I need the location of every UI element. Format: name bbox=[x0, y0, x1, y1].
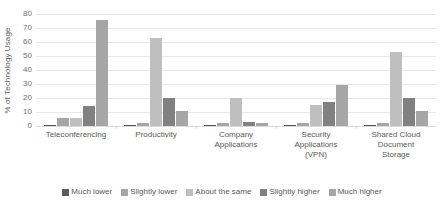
legend-label: Slightly higher bbox=[269, 188, 319, 196]
x-axis-tick-mark bbox=[196, 126, 197, 129]
bar-groups bbox=[36, 14, 436, 126]
bar[interactable] bbox=[416, 111, 428, 126]
bar[interactable] bbox=[364, 125, 376, 126]
y-axis-tick-label: 50 bbox=[23, 52, 32, 60]
bar[interactable] bbox=[403, 98, 415, 126]
bar[interactable] bbox=[150, 38, 162, 126]
bar[interactable] bbox=[83, 106, 95, 126]
x-axis-tick-label-line: (VPN) bbox=[277, 150, 355, 160]
legend-label: About the same bbox=[195, 188, 251, 196]
x-axis-tick-label-line: Applications bbox=[197, 140, 275, 150]
bar[interactable] bbox=[124, 125, 136, 126]
bar-chart: % of Technology Usage 01020304050607080 … bbox=[0, 0, 444, 218]
x-axis-tick-mark bbox=[116, 126, 117, 129]
legend-label: Much lower bbox=[71, 188, 112, 196]
bar[interactable] bbox=[256, 123, 268, 126]
y-axis-tick-labels: 01020304050607080 bbox=[14, 14, 34, 126]
x-axis-tick-labels: TeleconferencingProductivityCompanyAppli… bbox=[36, 130, 436, 178]
x-axis-tick-mark bbox=[276, 126, 277, 129]
legend-swatch-icon bbox=[121, 189, 128, 196]
x-axis-tick-label: Teleconferencing bbox=[36, 130, 116, 178]
y-axis-tick-label: 60 bbox=[23, 38, 32, 46]
bar[interactable] bbox=[57, 118, 69, 126]
chart-legend: Much lowerSlightly lowerAbout the sameSl… bbox=[0, 184, 444, 200]
bar[interactable] bbox=[310, 105, 322, 126]
y-axis-tick-label: 40 bbox=[23, 66, 32, 74]
bar[interactable] bbox=[44, 125, 56, 126]
bar-group bbox=[36, 14, 116, 126]
bar[interactable] bbox=[163, 98, 175, 126]
y-axis-tick-label: 80 bbox=[23, 10, 32, 18]
legend-item[interactable]: Slightly higher bbox=[260, 188, 319, 196]
x-axis-tick-label-line: Applications bbox=[277, 140, 355, 150]
y-axis-title-text: % of Technology Usage bbox=[3, 27, 12, 113]
bar[interactable] bbox=[217, 123, 229, 126]
bar[interactable] bbox=[96, 20, 108, 126]
bar-group bbox=[196, 14, 276, 126]
x-axis-tick-label-line: Company bbox=[197, 130, 275, 140]
bar[interactable] bbox=[323, 102, 335, 126]
y-axis-tick-label: 20 bbox=[23, 94, 32, 102]
x-axis-tick-label-line: Storage bbox=[357, 150, 435, 160]
y-axis-title: % of Technology Usage bbox=[0, 0, 14, 140]
bar-group bbox=[116, 14, 196, 126]
bar[interactable] bbox=[284, 125, 296, 126]
bar[interactable] bbox=[390, 52, 402, 126]
legend-item[interactable]: Slightly lower bbox=[121, 188, 177, 196]
x-axis-tick-label-line: Teleconferencing bbox=[37, 130, 115, 140]
x-axis-tick-label: CompanyApplications bbox=[196, 130, 276, 178]
legend-swatch-icon bbox=[62, 189, 69, 196]
legend-item[interactable]: Much lower bbox=[62, 188, 112, 196]
bar[interactable] bbox=[377, 123, 389, 126]
x-axis-tick-label-line: Document bbox=[357, 140, 435, 150]
x-axis-tick-label-line: Security bbox=[277, 130, 355, 140]
y-axis-tick-label: 70 bbox=[23, 24, 32, 32]
axis-baseline bbox=[36, 126, 436, 127]
plot-area bbox=[36, 14, 436, 126]
legend-label: Slightly lower bbox=[130, 188, 177, 196]
bar[interactable] bbox=[137, 123, 149, 126]
bar[interactable] bbox=[70, 118, 82, 126]
legend-swatch-icon bbox=[260, 189, 267, 196]
x-axis-tick-label: Shared CloudDocumentStorage bbox=[356, 130, 436, 178]
x-axis-tick-mark bbox=[356, 126, 357, 129]
bar[interactable] bbox=[243, 122, 255, 126]
bar[interactable] bbox=[336, 85, 348, 126]
bar[interactable] bbox=[176, 111, 188, 126]
legend-label: Much higher bbox=[338, 188, 382, 196]
y-axis-tick-label: 30 bbox=[23, 80, 32, 88]
bar[interactable] bbox=[297, 123, 309, 126]
legend-swatch-icon bbox=[186, 189, 193, 196]
x-axis-tick-label: Productivity bbox=[116, 130, 196, 178]
legend-item[interactable]: Much higher bbox=[329, 188, 382, 196]
x-axis-tick-label-line: Productivity bbox=[117, 130, 195, 140]
legend-item[interactable]: About the same bbox=[186, 188, 251, 196]
bar-group bbox=[356, 14, 436, 126]
legend-swatch-icon bbox=[329, 189, 336, 196]
y-axis-tick-label: 0 bbox=[28, 122, 32, 130]
bar[interactable] bbox=[230, 98, 242, 126]
x-axis-tick-label-line: Shared Cloud bbox=[357, 130, 435, 140]
x-axis-tick-label: SecurityApplications(VPN) bbox=[276, 130, 356, 178]
bar[interactable] bbox=[204, 125, 216, 126]
bar-group bbox=[276, 14, 356, 126]
y-axis-tick-label: 10 bbox=[23, 108, 32, 116]
